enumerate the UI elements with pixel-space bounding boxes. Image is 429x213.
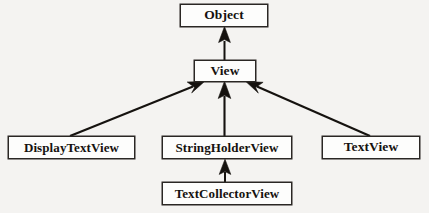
class-node-label: TextCollectorView — [175, 187, 280, 201]
class-node-textview[interactable]: TextView — [322, 136, 420, 159]
class-node-label: StringHolderView — [176, 141, 279, 155]
class-node-label: DisplayTextView — [24, 141, 119, 155]
edge-textview-to-view — [246, 82, 370, 137]
edge-displaytextview-to-view — [70, 82, 205, 137]
class-node-displaytextview[interactable]: DisplayTextView — [8, 136, 135, 159]
class-node-view[interactable]: View — [194, 60, 256, 82]
class-node-object[interactable]: Object — [180, 4, 268, 27]
edge-textcollectorview-to-stringholderview — [219, 159, 231, 182]
arrowhead-icon — [218, 81, 231, 98]
arrowhead-icon — [219, 27, 231, 43]
edge-view-to-object — [219, 27, 231, 61]
class-hierarchy-diagram: Object View DisplayTextView StringHolder… — [0, 0, 429, 213]
class-node-label: TextView — [344, 140, 399, 155]
class-node-label: View — [210, 64, 239, 79]
class-node-stringholderview[interactable]: StringHolderView — [162, 136, 292, 159]
edge-stringholderview-to-view — [218, 81, 231, 136]
class-node-label: Object — [204, 8, 244, 23]
class-node-textcollectorview[interactable]: TextCollectorView — [162, 182, 292, 205]
